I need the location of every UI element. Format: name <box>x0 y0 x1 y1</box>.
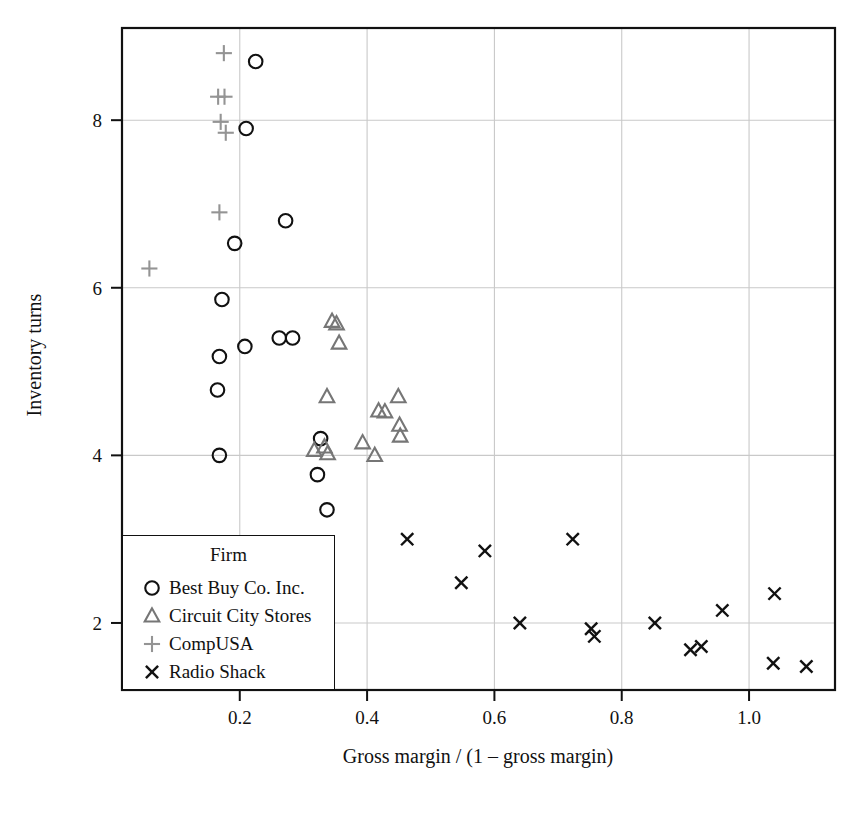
legend-entry-list: Best Buy Co. Inc.Circuit City StoresComp… <box>123 574 334 686</box>
cross-glyph <box>146 666 158 678</box>
data-point-circle <box>272 331 286 345</box>
data-point-cross <box>767 657 779 669</box>
data-point-triangle <box>391 389 406 402</box>
legend: Firm Best Buy Co. Inc.Circuit City Store… <box>122 535 335 690</box>
legend-item[interactable]: Circuit City Stores <box>123 602 334 630</box>
data-point-circle <box>213 350 227 364</box>
x-tick-label: 0.2 <box>228 708 252 727</box>
plot-canvas <box>0 0 863 816</box>
x-tick-label: 1.0 <box>737 708 761 727</box>
data-point-circle <box>314 432 328 446</box>
data-point-circle <box>320 503 334 517</box>
legend-item-label: Best Buy Co. Inc. <box>169 577 305 599</box>
data-point-cross <box>567 533 579 545</box>
data-point-plus <box>141 260 157 276</box>
data-point-circle <box>311 468 325 482</box>
x-tick-label: 0.4 <box>355 708 379 727</box>
data-point-triangle <box>355 435 370 448</box>
plus-marker-icon <box>137 630 167 658</box>
data-point-triangle <box>367 448 382 461</box>
x-tick-label: 0.6 <box>483 708 507 727</box>
y-tick-label: 2 <box>72 613 102 632</box>
y-axis-title: Inventory turns <box>23 294 46 417</box>
data-point-triangle <box>320 389 335 402</box>
series-triangle <box>307 314 408 461</box>
data-point-circle <box>279 214 293 228</box>
y-tick-label: 4 <box>72 446 102 465</box>
data-point-cross <box>695 640 707 652</box>
triangle-marker-icon <box>137 602 167 630</box>
data-point-circle <box>215 293 229 307</box>
cross-marker-icon <box>137 658 167 686</box>
data-point-cross <box>768 588 780 600</box>
data-point-circle <box>249 55 263 69</box>
data-point-cross <box>716 604 728 616</box>
data-point-triangle <box>332 335 347 348</box>
circle-marker-icon <box>137 574 167 602</box>
legend-item[interactable]: Radio Shack <box>123 658 334 686</box>
y-tick-label: 8 <box>72 111 102 130</box>
legend-item-label: Circuit City Stores <box>169 605 312 627</box>
data-point-cross <box>479 545 491 557</box>
legend-title: Firm <box>123 544 334 566</box>
data-point-plus <box>211 204 227 220</box>
legend-item-label: Radio Shack <box>169 661 266 683</box>
circle-glyph <box>145 581 159 595</box>
y-tick-label: 6 <box>72 278 102 297</box>
series-plus <box>141 45 234 276</box>
legend-item-label: CompUSA <box>169 633 253 655</box>
series-cross <box>401 533 812 673</box>
data-point-cross <box>401 533 413 545</box>
legend-item[interactable]: CompUSA <box>123 630 334 658</box>
scatter-plot-figure: 0.20.40.60.81.02468 Gross margin / (1 – … <box>0 0 863 816</box>
triangle-glyph <box>145 608 160 621</box>
data-point-circle <box>239 122 253 136</box>
data-point-circle <box>211 383 225 397</box>
data-point-cross <box>800 660 812 672</box>
data-point-cross <box>455 577 467 589</box>
series-circle <box>211 55 334 517</box>
x-tick-label: 0.8 <box>610 708 634 727</box>
x-axis-title: Gross margin / (1 – gross margin) <box>343 745 613 768</box>
data-point-cross <box>684 644 696 656</box>
data-point-plus <box>216 45 232 61</box>
data-point-circle <box>286 331 300 345</box>
legend-item[interactable]: Best Buy Co. Inc. <box>123 574 334 602</box>
plus-glyph <box>144 636 160 652</box>
